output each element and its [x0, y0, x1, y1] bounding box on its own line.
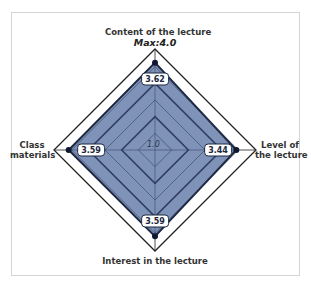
- axis-label-materials-line1: Class: [10, 140, 54, 150]
- value-badge-interest: 3.59: [141, 215, 169, 228]
- data-point-3: [66, 147, 72, 153]
- axis-label-materials: Class materials: [10, 140, 54, 160]
- axis-label-content: Content of the lecture: [105, 27, 205, 37]
- axis-label-level-line1: Level of: [255, 140, 305, 150]
- axis-label-level: Level of the lecture: [255, 140, 305, 160]
- value-badge-materials: 3.59: [77, 144, 105, 157]
- max-value-label: Max:4.0: [125, 37, 185, 48]
- axis-label-materials-line2: materials: [10, 150, 54, 160]
- value-badge-content: 3.62: [141, 73, 169, 86]
- data-point-2: [152, 233, 158, 239]
- center-min-label: 1.0: [147, 140, 160, 149]
- data-point-1: [233, 147, 239, 153]
- axis-label-level-line2: the lecture: [255, 150, 305, 160]
- data-point-0: [152, 60, 158, 66]
- axis-label-interest: Interest in the lecture: [100, 256, 210, 266]
- value-badge-level: 3.44: [204, 144, 232, 157]
